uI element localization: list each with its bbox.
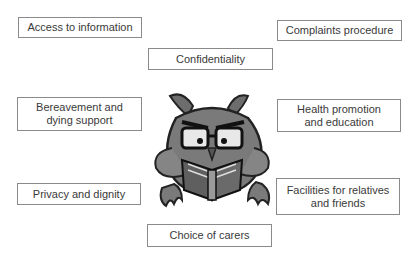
box-label: Access to information bbox=[27, 21, 132, 34]
box-choice-of-carers: Choice of carers bbox=[147, 224, 272, 247]
box-label: Complaints procedure bbox=[286, 24, 394, 37]
box-bereavement-support: Bereavement and dying support bbox=[17, 97, 142, 131]
box-label: Bereavement and dying support bbox=[36, 101, 123, 127]
box-label: Choice of carers bbox=[169, 229, 249, 242]
box-label: Health promotion and education bbox=[297, 103, 381, 129]
box-access-to-information: Access to information bbox=[18, 17, 142, 38]
box-confidentiality: Confidentiality bbox=[148, 48, 273, 70]
box-health-promotion: Health promotion and education bbox=[277, 99, 401, 132]
box-privacy-and-dignity: Privacy and dignity bbox=[17, 183, 141, 205]
box-label: Confidentiality bbox=[176, 53, 245, 66]
box-complaints-procedure: Complaints procedure bbox=[277, 20, 402, 41]
owl-reading-book-icon bbox=[148, 88, 278, 213]
box-facilities-for-relatives: Facilities for relatives and friends bbox=[276, 178, 400, 215]
box-label: Privacy and dignity bbox=[33, 188, 125, 201]
box-label: Facilities for relatives and friends bbox=[287, 184, 390, 210]
